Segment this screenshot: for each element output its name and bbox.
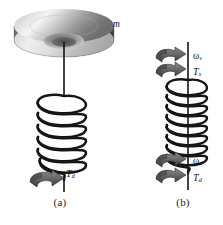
mass-label: m — [113, 20, 120, 30]
torque-arrow-bottom — [156, 168, 186, 183]
torque-arrow-top — [156, 62, 186, 77]
figure-canvas: m Td ωs Ts ωd Td (a) (b) — [0, 0, 223, 225]
coil-spring-a — [38, 95, 86, 180]
torque-shaft-label: Ts — [193, 67, 201, 77]
torque-applied-label: Td — [66, 169, 75, 179]
panel-a-graphics — [0, 0, 130, 225]
caption-a: (a) — [40, 196, 80, 208]
panel-a — [0, 0, 130, 225]
omega-shaft-label: ωs — [193, 52, 202, 62]
omega-arrow-top — [156, 47, 186, 62]
omega-disk-label: ωd — [193, 157, 203, 167]
panel-b-graphics — [130, 0, 223, 225]
panel-b — [130, 0, 223, 225]
torque-disk-label: Td — [193, 173, 202, 183]
caption-b: (b) — [163, 196, 203, 208]
